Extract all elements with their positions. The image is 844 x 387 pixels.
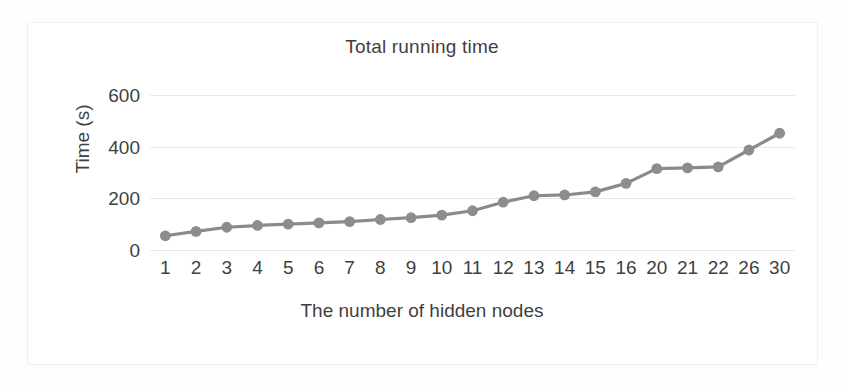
- data-point-marker: [283, 219, 294, 230]
- x-axis-tick-label: 11: [463, 258, 483, 277]
- x-axis-tick-label: 26: [738, 258, 759, 277]
- data-point-marker: [436, 210, 447, 221]
- data-point-marker: [498, 197, 509, 208]
- x-axis-tick-label: 8: [375, 258, 386, 277]
- x-axis-tick-label: 30: [769, 258, 790, 277]
- y-axis-tick-label: 600: [80, 86, 140, 105]
- data-series: [150, 95, 795, 250]
- y-axis-tick-label: 400: [80, 137, 140, 156]
- x-axis-tick-label: 15: [585, 258, 606, 277]
- x-axis-tick-label: 4: [252, 258, 263, 277]
- x-axis-tick-label: 16: [615, 258, 636, 277]
- data-point-marker: [682, 162, 693, 173]
- data-point-marker: [529, 190, 540, 201]
- x-axis-tick-label: 2: [191, 258, 202, 277]
- data-point-marker: [774, 128, 785, 139]
- data-point-marker: [344, 216, 355, 227]
- x-axis-tick-label: 20: [646, 258, 667, 277]
- x-axis-tick-labels: 123456789101112131415162021222630: [150, 258, 795, 284]
- data-point-marker: [744, 145, 755, 156]
- x-axis-tick-label: 3: [221, 258, 232, 277]
- y-axis-tick-label: 200: [80, 189, 140, 208]
- data-point-marker: [375, 214, 386, 225]
- data-point-marker: [406, 212, 417, 223]
- chart-screenshot: Total running time Time (s) 0200400600 1…: [0, 0, 844, 387]
- data-point-marker: [713, 161, 724, 172]
- y-axis-tick-labels: 0200400600: [78, 95, 140, 250]
- plot-area: [150, 95, 795, 250]
- data-point-marker: [467, 205, 478, 216]
- x-axis-tick-label: 10: [431, 258, 452, 277]
- x-axis-tick-label: 12: [493, 258, 514, 277]
- data-point-marker: [221, 222, 232, 233]
- data-point-marker: [559, 190, 570, 201]
- x-axis-tick-label: 22: [708, 258, 729, 277]
- data-point-marker: [621, 178, 632, 189]
- data-point-marker: [252, 220, 263, 231]
- x-axis-title: The number of hidden nodes: [0, 300, 844, 322]
- data-point-marker: [314, 217, 325, 228]
- y-axis-tick-label: 0: [80, 241, 140, 260]
- x-axis-tick-label: 7: [344, 258, 355, 277]
- x-axis-tick-label: 5: [283, 258, 294, 277]
- data-point-marker: [191, 226, 202, 237]
- data-point-marker: [590, 186, 601, 197]
- x-axis-tick-label: 9: [406, 258, 417, 277]
- data-point-marker: [160, 230, 171, 241]
- chart-title: Total running time: [0, 36, 844, 58]
- x-axis-tick-label: 13: [523, 258, 544, 277]
- gridline: [150, 250, 795, 251]
- x-axis-tick-label: 1: [160, 258, 171, 277]
- x-axis-tick-label: 6: [314, 258, 325, 277]
- data-point-marker: [651, 163, 662, 174]
- x-axis-tick-label: 21: [677, 258, 698, 277]
- x-axis-tick-label: 14: [554, 258, 575, 277]
